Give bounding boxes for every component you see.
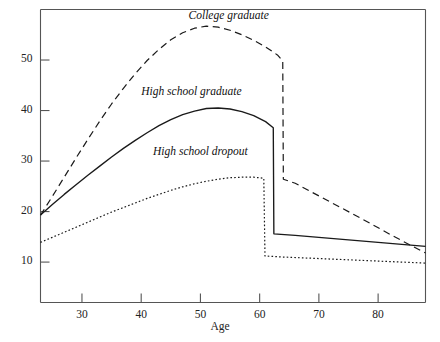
series-label: College graduate xyxy=(189,9,269,21)
x-tick-label: 40 xyxy=(121,308,161,320)
x-tick-label: 50 xyxy=(180,308,220,320)
y-tick-label: 50 xyxy=(3,52,33,64)
series-line xyxy=(41,177,426,263)
y-tick-label: 40 xyxy=(3,103,33,115)
series-label: High school dropout xyxy=(153,145,248,157)
series-line xyxy=(41,108,426,246)
chart-container: 1020304050 304050607080 College graduate… xyxy=(0,0,440,342)
y-tick-label: 10 xyxy=(3,254,33,266)
series-label: High school graduate xyxy=(141,85,241,97)
x-axis-title: Age xyxy=(0,320,440,332)
y-tick-label: 20 xyxy=(3,204,33,216)
x-tick-label: 80 xyxy=(358,308,398,320)
series-line xyxy=(41,26,426,253)
x-tick-label: 70 xyxy=(299,308,339,320)
x-tick-label: 30 xyxy=(62,308,102,320)
x-tick-label: 60 xyxy=(240,308,280,320)
y-tick-label: 30 xyxy=(3,153,33,165)
chart-plot-area xyxy=(0,0,440,342)
